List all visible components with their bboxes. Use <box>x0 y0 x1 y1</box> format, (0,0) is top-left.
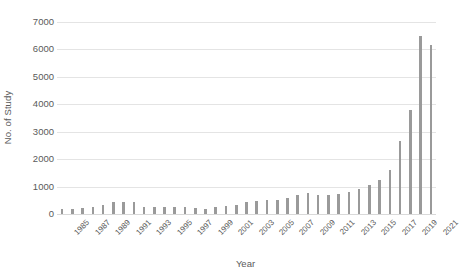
x-axis-tick-label: 1991 <box>134 218 153 237</box>
bar <box>276 200 279 214</box>
x-axis-tick-label: 1993 <box>154 218 173 237</box>
bar <box>102 205 105 214</box>
x-axis-tick-label: 1987 <box>93 218 112 237</box>
x-axis-tick-label: 1999 <box>216 218 235 237</box>
y-axis-tick-label: 7000 <box>20 17 54 27</box>
x-axis-tick-label: 2007 <box>298 218 317 237</box>
bar <box>378 180 381 214</box>
bar <box>184 207 187 214</box>
x-axis-title: Year <box>0 258 451 269</box>
bar <box>348 192 351 214</box>
bar <box>327 195 330 214</box>
x-axis-tick-label: 2015 <box>380 218 399 237</box>
bar <box>409 110 412 214</box>
x-axis-tick-label: 2003 <box>257 218 276 237</box>
x-axis-tick-label: 1995 <box>175 218 194 237</box>
y-axis-tick-label: 4000 <box>20 99 54 109</box>
y-axis-title-label: No. of Study <box>3 90 14 143</box>
bar-series <box>57 22 436 214</box>
bar <box>235 205 238 214</box>
y-axis-tick-label: 6000 <box>20 44 54 54</box>
y-axis-tick-label: 0 <box>20 209 54 219</box>
bar <box>286 198 289 214</box>
bar <box>296 195 299 214</box>
bar <box>307 193 310 214</box>
bar <box>317 195 320 214</box>
bar <box>358 189 361 214</box>
bar <box>255 201 258 214</box>
x-axis-tick-label: 1989 <box>113 218 132 237</box>
bar <box>122 202 125 214</box>
y-axis-tick-label: 5000 <box>20 72 54 82</box>
x-axis-tick-label: 2001 <box>236 218 255 237</box>
x-axis-tick-label: 1997 <box>195 218 214 237</box>
x-axis-title-label: Year <box>236 258 255 269</box>
bar <box>214 207 217 214</box>
y-axis-tick-label: 3000 <box>20 127 54 137</box>
bar <box>133 202 136 214</box>
x-axis-tick-label: 1985 <box>72 218 91 237</box>
bar <box>153 207 156 214</box>
bar <box>337 194 340 214</box>
bar <box>399 141 402 214</box>
bar <box>92 207 95 214</box>
x-axis-tick-label: 2009 <box>318 218 337 237</box>
y-axis-title: No. of Study <box>0 62 16 172</box>
bar <box>266 200 269 214</box>
bar <box>389 170 392 214</box>
x-axis-tick-label: 2021 <box>441 218 460 237</box>
x-axis-tick-label: 2011 <box>338 218 357 237</box>
bar <box>143 207 146 214</box>
x-axis-tick-label: 2005 <box>277 218 296 237</box>
y-axis-tick-label: 2000 <box>20 154 54 164</box>
bar <box>430 45 433 214</box>
bar <box>245 202 248 214</box>
x-axis-tick-label: 2013 <box>359 218 378 237</box>
bar <box>368 185 371 214</box>
bar <box>419 36 422 214</box>
x-axis-tick-label: 2019 <box>421 218 440 237</box>
bar <box>163 207 166 214</box>
y-axis-tick-label: 1000 <box>20 182 54 192</box>
bar <box>112 202 115 214</box>
bar <box>173 207 176 214</box>
x-axis-tick-labels: 1985198719891991199319951997199920012003… <box>57 214 436 254</box>
y-axis-tick-labels: 01000200030004000500060007000 <box>16 0 54 225</box>
x-axis-tick-label: 2017 <box>400 218 419 237</box>
bar <box>225 206 228 214</box>
plot-area <box>57 22 436 214</box>
